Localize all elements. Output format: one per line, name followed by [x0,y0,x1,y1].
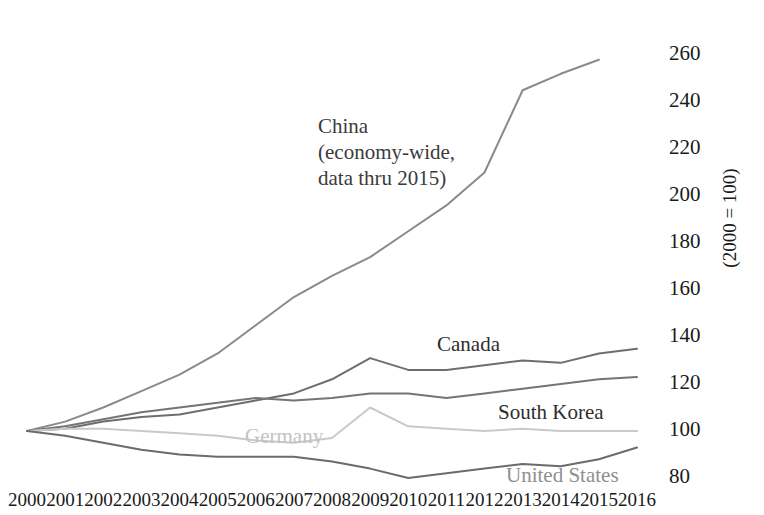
x-tick-2014: 2014 [542,489,580,511]
series-label-china-line-3: data thru 2015) [318,165,455,191]
x-tick-2000: 2000 [8,489,46,511]
x-tick-2008: 2008 [313,489,351,511]
chart-plot-area [0,0,764,515]
y-axis-title: (2000 = 100) [719,168,741,267]
series-line-china [27,60,599,431]
y-tick-180: 180 [669,229,723,254]
series-label-canada: Canada [437,331,500,357]
x-tick-2003: 2003 [122,489,160,511]
series-label-china-line-1: China [318,113,455,139]
x-tick-2001: 2001 [46,489,84,511]
x-tick-2012: 2012 [466,489,504,511]
y-tick-240: 240 [669,88,723,113]
y-tick-140: 140 [669,323,723,348]
chart-figure: 26024022020018016014012010080 2000200120… [0,0,764,515]
series-label-china-line-2: (economy-wide, [318,139,455,165]
y-tick-100: 100 [669,417,723,442]
series-label-south-korea: South Korea [498,399,604,425]
y-tick-80: 80 [669,464,723,489]
x-tick-2015: 2015 [580,489,618,511]
series-label-united-states: United States [506,462,619,488]
y-tick-120: 120 [669,370,723,395]
y-tick-220: 220 [669,135,723,160]
x-tick-2013: 2013 [504,489,542,511]
x-tick-2007: 2007 [275,489,313,511]
x-tick-2016: 2016 [618,489,656,511]
y-tick-260: 260 [669,41,723,66]
y-tick-200: 200 [669,182,723,207]
x-tick-2004: 2004 [161,489,199,511]
x-tick-2002: 2002 [84,489,122,511]
y-tick-160: 160 [669,276,723,301]
x-tick-2005: 2005 [199,489,237,511]
x-tick-2010: 2010 [389,489,427,511]
series-label-china: China (economy-wide, data thru 2015) [318,113,455,191]
x-tick-2006: 2006 [237,489,275,511]
x-tick-2009: 2009 [351,489,389,511]
series-label-germany: Germany [245,423,323,449]
x-tick-2011: 2011 [428,489,465,511]
